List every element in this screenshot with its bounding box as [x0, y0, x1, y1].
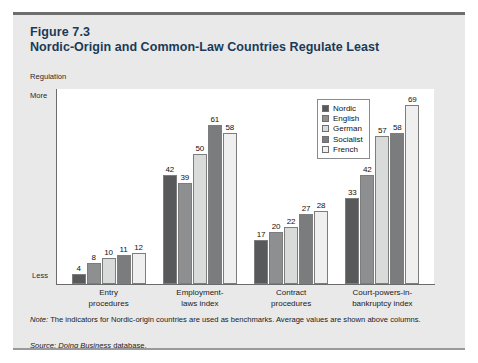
y-axis-less-label: Less [32, 271, 48, 280]
category-label-line: Contract [246, 288, 337, 299]
bar-wrapper: 8 [87, 89, 101, 284]
category-label: Court-powers-in-bankruptcy index [337, 288, 428, 309]
bar-french[interactable] [405, 105, 419, 284]
bar-french[interactable] [314, 211, 328, 284]
bar-value-label: 17 [257, 230, 266, 239]
bar-socialist[interactable] [208, 125, 222, 284]
bar-value-label: 33 [348, 188, 357, 197]
bar-value-label: 27 [302, 204, 311, 213]
bar-english[interactable] [178, 183, 192, 284]
legend-item-socialist[interactable]: Socialist [322, 134, 363, 144]
note-text: The indicators for Nordic-origin countri… [48, 315, 420, 324]
bar-french[interactable] [223, 133, 237, 284]
legend-swatch-icon [322, 105, 329, 112]
x-axis-line [56, 284, 435, 285]
bar-english[interactable] [360, 175, 374, 284]
bar-value-label: 20 [272, 222, 281, 231]
source-publication: Doing Business [56, 341, 111, 350]
category-label: Contractprocedures [246, 288, 337, 309]
bar-value-label: 10 [104, 248, 113, 257]
category-label-line: Court-powers-in- [337, 288, 428, 299]
bar-wrapper: 27 [299, 89, 313, 284]
legend-item-french[interactable]: French [322, 145, 363, 155]
bar-wrapper: 57 [375, 89, 389, 284]
figure-title: Nordic-Origin and Common-Law Countries R… [30, 40, 450, 55]
bar-wrapper: 17 [254, 89, 268, 284]
legend-label: Nordic [333, 104, 356, 113]
category-label: Entryprocedures [63, 288, 154, 309]
legend-swatch-icon [322, 115, 329, 122]
bar-wrapper: 4 [72, 89, 86, 284]
figure-source: Source: Doing Business database. [30, 341, 454, 351]
bar-wrapper: 10 [102, 89, 116, 284]
bar-socialist[interactable] [390, 133, 404, 284]
legend-item-german[interactable]: German [322, 124, 363, 134]
source-tail: database. [111, 341, 146, 350]
bar-wrapper: 39 [178, 89, 192, 284]
bar-nordic[interactable] [254, 240, 268, 284]
bar-socialist[interactable] [299, 214, 313, 284]
note-lead: Note: [30, 315, 48, 324]
bar-wrapper: 42 [163, 89, 177, 284]
y-axis-more-label: More [30, 91, 47, 100]
legend-item-english[interactable]: English [322, 113, 363, 123]
source-lead: Source: [30, 341, 56, 350]
legend-swatch-icon [322, 146, 329, 153]
legend-item-nordic[interactable]: Nordic [322, 103, 363, 113]
bar-value-label: 42 [363, 165, 372, 174]
category-label: Employment-laws index [154, 288, 245, 309]
figure-card: Figure 7.3 Nordic-Origin and Common-Law … [13, 12, 465, 350]
bar-french[interactable] [132, 253, 146, 284]
bar-value-label: 57 [378, 126, 387, 135]
bar-wrapper: 11 [117, 89, 131, 284]
legend-label: English [333, 114, 359, 123]
figure-note: Note: The indicators for Nordic-origin c… [30, 315, 454, 325]
bar-nordic[interactable] [163, 175, 177, 284]
category-label-line: Entry [63, 288, 154, 299]
legend-swatch-icon [322, 125, 329, 132]
bar-value-label: 12 [134, 243, 143, 252]
bar-english[interactable] [269, 232, 283, 284]
bar-value-label: 42 [165, 165, 174, 174]
bar-wrapper: 61 [208, 89, 222, 284]
bar-german[interactable] [102, 258, 116, 284]
category-label-line: procedures [63, 299, 154, 310]
category-label-line: procedures [246, 299, 337, 310]
bar-value-label: 28 [317, 201, 326, 210]
bar-wrapper: 69 [405, 89, 419, 284]
category-label-line: Employment- [154, 288, 245, 299]
bar-group: 4239506158 [154, 89, 245, 284]
bar-german[interactable] [284, 227, 298, 284]
bar-value-label: 4 [76, 264, 80, 273]
legend-label: German [333, 124, 362, 133]
bar-value-label: 39 [180, 173, 189, 182]
legend-label: French [333, 145, 358, 154]
category-label-line: laws index [154, 299, 245, 310]
bar-wrapper: 58 [223, 89, 237, 284]
legend-label: Socialist [333, 135, 363, 144]
bar-value-label: 8 [91, 253, 95, 262]
bar-german[interactable] [193, 154, 207, 284]
legend-swatch-icon [322, 136, 329, 143]
category-labels: EntryproceduresEmployment-laws indexCont… [57, 288, 434, 309]
bar-value-label: 58 [393, 123, 402, 132]
figure-header: Figure 7.3 Nordic-Origin and Common-Law … [30, 25, 450, 55]
y-axis-unit-label: Regulation [30, 72, 66, 81]
bar-german[interactable] [375, 136, 389, 284]
bar-value-label: 58 [225, 123, 234, 132]
figure-number: Figure 7.3 [30, 25, 450, 40]
bar-nordic[interactable] [345, 198, 359, 284]
bar-groups: 48101112423950615817202227283342575869 [57, 89, 434, 284]
bar-socialist[interactable] [117, 255, 131, 284]
bar-wrapper: 22 [284, 89, 298, 284]
bar-english[interactable] [87, 263, 101, 284]
bar-wrapper: 50 [193, 89, 207, 284]
chart-legend: NordicEnglishGermanSocialistFrench [317, 99, 370, 159]
bar-nordic[interactable] [72, 274, 86, 284]
bar-group: 48101112 [63, 89, 154, 284]
bar-wrapper: 58 [390, 89, 404, 284]
bar-value-label: 50 [195, 144, 204, 153]
bar-value-label: 69 [408, 95, 417, 104]
bar-value-label: 61 [210, 115, 219, 124]
bar-value-label: 11 [119, 245, 127, 254]
